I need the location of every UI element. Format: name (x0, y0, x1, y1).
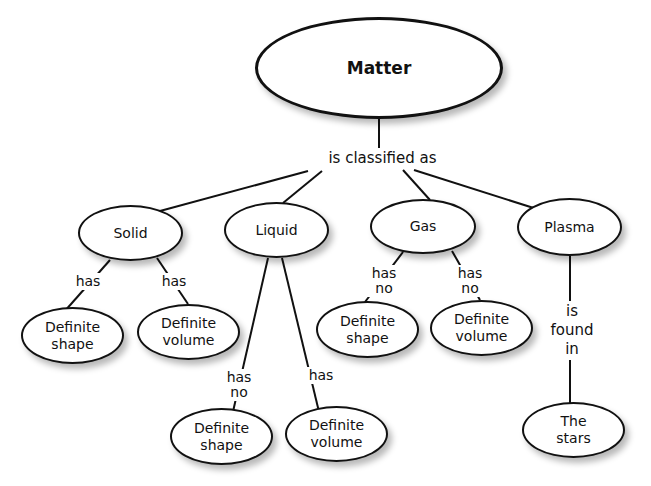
node-matter: Matter (255, 17, 503, 119)
node-liquid-definite-volume: Definite volume (285, 406, 388, 462)
node-gas: Gas (370, 199, 476, 254)
node-matter-label: Matter (347, 60, 412, 77)
link-gas-has-no-volume: has no (450, 265, 490, 297)
link-gas-has-no-shape: has no (364, 265, 404, 297)
node-plasma: Plasma (517, 198, 622, 256)
node-gas-definite-shape: Definite shape (316, 301, 419, 358)
link-plasma-is-found-in: is found in (546, 301, 598, 360)
node-liquid: Liquid (224, 202, 329, 258)
link-liquid-has-volume: has (301, 367, 341, 384)
node-liquid-definite-shape: Definite shape (170, 408, 273, 465)
node-solid: Solid (78, 205, 183, 261)
node-solid-definite-volume: Definite volume (137, 304, 240, 360)
node-solid-definite-shape: Definite shape (21, 307, 124, 364)
link-liquid-has-no-shape: has no (219, 369, 259, 401)
link-solid-has-shape: has (68, 273, 108, 290)
link-is-classified-as: is classified as (298, 148, 467, 168)
link-solid-has-volume: has (154, 273, 194, 290)
node-the-stars: The stars (522, 402, 625, 458)
node-gas-definite-volume: Definite volume (430, 300, 533, 356)
